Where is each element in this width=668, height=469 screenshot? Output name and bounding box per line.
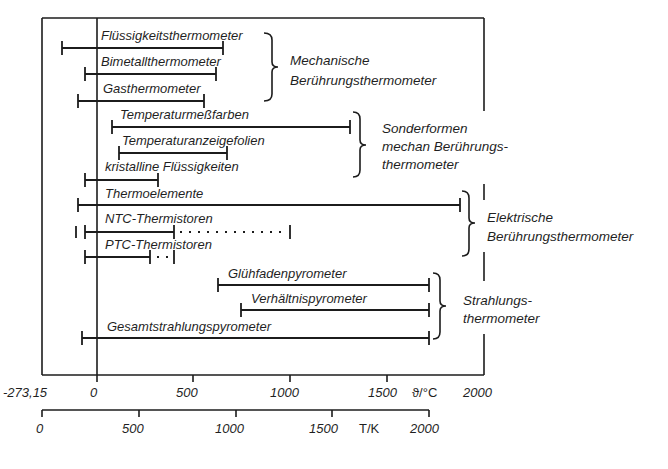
group-label: Berührungsthermometer (487, 229, 634, 244)
range-bar (112, 120, 350, 134)
range-bar (62, 41, 223, 55)
bar-label: Flüssigkeitsthermometer (101, 28, 243, 43)
celsius-tick-label: 500 (176, 385, 198, 400)
kelvin-tick-label: 500 (122, 421, 144, 436)
group-label: mechan Berührungs- (382, 139, 509, 154)
bar-label: kristalline Flüssigkeiten (105, 159, 239, 174)
group-label: Sonderformen (382, 121, 468, 136)
bar-label: Glühfadenpyrometer (228, 266, 347, 281)
group-label: thermometer (463, 311, 540, 326)
brace-mechanische (264, 33, 278, 101)
group-label: Strahlungs- (463, 293, 533, 308)
range-bar (119, 146, 227, 160)
bar-label: Gesamtstrahlungspyrometer (107, 319, 272, 334)
celsius-tick-label: 2000 (462, 385, 493, 400)
kelvin-tick-label: 0 (36, 421, 44, 436)
kelvin-tick-label: 1500 (309, 421, 339, 436)
kelvin-axis: 0 500 1000 1500 T/K 2000 (36, 410, 440, 436)
celsius-axis: -273,15 0 500 1000 1500 ϑ/°C 2000 (3, 385, 493, 400)
bar-label: PTC-Thermistoren (105, 237, 212, 252)
group-label: thermometer (382, 157, 459, 172)
kelvin-tick-label: 1000 (215, 421, 245, 436)
celsius-unit-label: ϑ/°C (412, 385, 437, 400)
range-bar (85, 250, 174, 264)
bar-label: Bimetallthermometer (101, 54, 222, 69)
celsius-tick-label: 0 (90, 385, 98, 400)
range-bar (85, 173, 158, 187)
range-bar (85, 67, 216, 81)
thermometer-range-diagram: -273,15 0 500 1000 1500 ϑ/°C 2000 0 500 … (0, 0, 668, 469)
group-label: Mechanische (290, 53, 370, 68)
group-label: Elektrische (487, 210, 553, 225)
brace-elektrische (462, 191, 475, 256)
bar-label: NTC-Thermistoren (105, 211, 213, 226)
brace-strahlung (433, 273, 446, 339)
kelvin-tick-label: 2000 (409, 421, 440, 436)
brace-sonderformen (353, 112, 366, 177)
kelvin-unit-label: T/K (359, 421, 380, 436)
bar-label: Gasthermometer (103, 81, 201, 96)
group-label: Berührungsthermometer (290, 73, 437, 88)
celsius-tick-label: -273,15 (3, 385, 48, 400)
bar-label: Thermoelemente (105, 186, 203, 201)
celsius-tick-label: 1500 (368, 385, 398, 400)
bar-label: Temperaturanzeigefolien (122, 133, 265, 148)
bar-label: Verhältnispyrometer (251, 291, 368, 306)
bar-label: Temperaturmeßfarben (120, 107, 249, 122)
celsius-tick-label: 1000 (270, 385, 300, 400)
